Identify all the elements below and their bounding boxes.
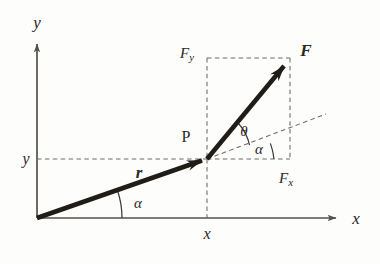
alpha-p-label: α — [255, 142, 263, 157]
f-vector-arrow — [207, 66, 284, 159]
fy-subscript: y — [189, 51, 194, 63]
fy-base: F — [180, 45, 189, 61]
vector-group — [37, 66, 284, 218]
fy-component-label: Fy — [180, 46, 194, 63]
y-tick-label: y — [22, 151, 29, 167]
theta-angle-label: θ — [240, 124, 247, 139]
y-axis-label: y — [33, 14, 41, 31]
fx-subscript: x — [288, 176, 293, 188]
alpha-p-arc — [270, 143, 274, 159]
alpha-origin-arc — [117, 190, 122, 218]
r-vector-label: r — [136, 164, 143, 181]
alpha-origin-label: α — [134, 196, 142, 211]
fx-base: F — [279, 170, 288, 186]
x-tick-label: x — [203, 226, 210, 242]
r-vector-arrow — [37, 161, 202, 219]
fx-component-label: Fx — [279, 171, 293, 188]
x-axis-label: x — [352, 210, 360, 227]
point-p-label: P — [182, 129, 191, 145]
vector-diagram: y x y x P r F Fy Fx α θ α — [0, 0, 380, 264]
f-vector-label: F — [300, 42, 311, 59]
